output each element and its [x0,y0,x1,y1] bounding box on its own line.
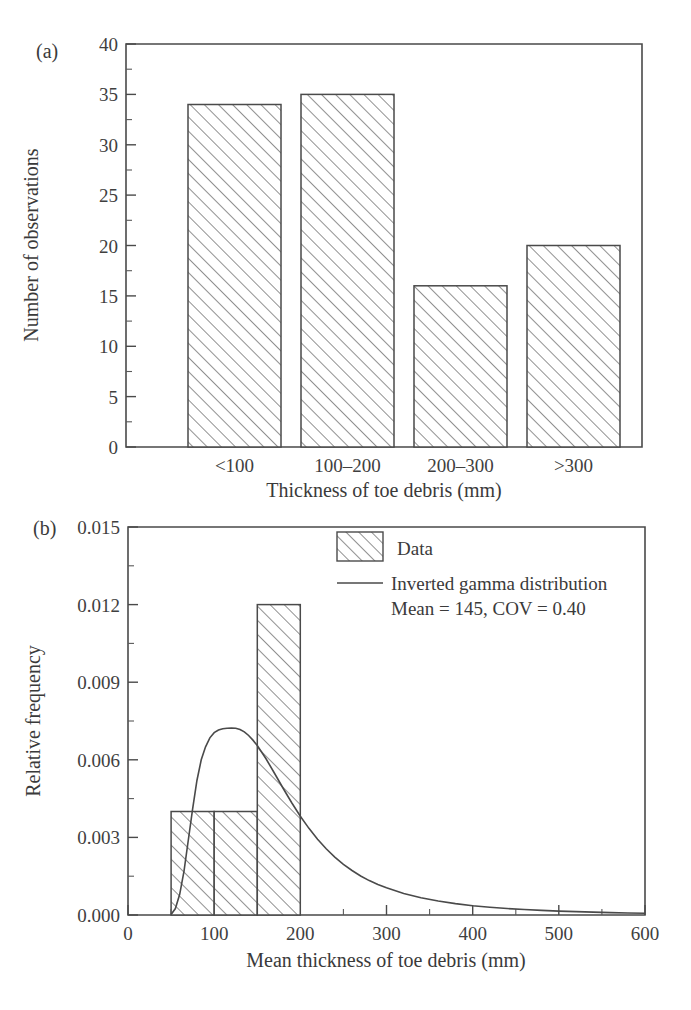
panel-b-xtick-200: 200 [286,923,315,944]
panel-a-xtick-lt100: <100 [215,455,254,476]
panel-a-chart: (a) [0,0,691,505]
panel-b-xtick-600: 600 [631,923,660,944]
legend-swatch-data [337,532,383,561]
panel-b-chart: (b) 0.015 0.012 0.009 [0,505,691,1010]
panel-a-ytick-20: 20 [99,236,118,257]
panel-b-ytick-0003: 0.003 [77,827,120,848]
panel-b-ytick-0000: 0.000 [77,905,120,926]
legend-label-data: Data [397,538,433,559]
bar-100-200 [301,94,394,447]
panel-b: (b) 0.015 0.012 0.009 [0,505,691,1010]
bar-gt300 [527,246,620,448]
panel-a-xtick-gt300: >300 [554,455,593,476]
panel-a-y-ticks [126,44,136,447]
panel-a-ytick-0: 0 [109,437,119,458]
panel-a-xtick-200-300: 200–300 [427,455,494,476]
panel-a-label: (a) [36,40,58,63]
panel-b-xtick-300: 300 [372,923,401,944]
panel-b-legend: Data Inverted gamma distribution Mean = … [337,532,608,619]
panel-b-xtick-400: 400 [458,923,487,944]
panel-a-ytick-15: 15 [99,286,118,307]
panel-b-label: (b) [33,517,56,540]
panel-a-ytick-10: 10 [99,336,118,357]
panel-b-ytick-0006: 0.006 [77,750,120,771]
panel-a-ytick-30: 30 [99,135,118,156]
hist-bin-100-150 [214,812,257,916]
panel-b-y-minor-ticks [128,566,134,876]
panel-b-y-axis-title: Relative frequency [22,645,45,797]
panel-a-xtick-100-200: 100–200 [314,455,381,476]
panel-b-ytick-0015: 0.015 [77,517,120,538]
panel-b-ytick-0012: 0.012 [77,595,120,616]
panel-b-x-axis-title: Mean thickness of toe debris (mm) [246,949,525,972]
panel-a-x-axis-title: Thickness of toe debris (mm) [266,479,502,502]
panel-b-xtick-100: 100 [200,923,229,944]
panel-b-xtick-0: 0 [123,923,133,944]
bar-lt100 [188,105,281,448]
panel-a-y-axis-title: Number of observations [20,148,42,342]
panel-b-xtick-500: 500 [545,923,574,944]
figure-container: (a) [0,0,691,1010]
panel-a-ytick-35: 35 [99,84,118,105]
bar-200-300 [414,286,507,447]
panel-b-ytick-0009: 0.009 [77,672,120,693]
panel-a-ytick-40: 40 [99,34,118,55]
panel-a-ytick-5: 5 [109,387,119,408]
panel-a-ytick-25: 25 [99,185,118,206]
legend-label-distribution: Inverted gamma distribution [391,573,608,594]
hist-bin-150-200 [257,605,300,915]
panel-a: (a) [0,0,691,505]
legend-label-params: Mean = 145, COV = 0.40 [391,598,586,619]
